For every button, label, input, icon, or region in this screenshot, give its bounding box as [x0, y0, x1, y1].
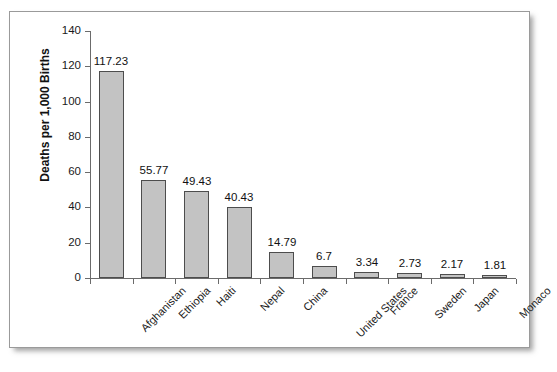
- bar-nepal[interactable]: [227, 207, 252, 278]
- y-axis-line: [90, 31, 91, 279]
- y-tick-label: 20: [35, 237, 81, 249]
- y-axis-title: Deaths per 1,000 Births: [38, 15, 52, 215]
- category-label-monaco: Monaco: [517, 285, 552, 320]
- y-tick-mark: [85, 102, 90, 103]
- bar-value-label: 14.79: [252, 237, 312, 249]
- x-tick-mark: [133, 279, 134, 284]
- chart-figure-frame: Deaths per 1,000 Births 0204060801001201…: [9, 11, 530, 348]
- bar-japan[interactable]: [440, 274, 465, 278]
- x-tick-mark: [260, 279, 261, 284]
- bar-value-label: 1.81: [465, 260, 525, 272]
- y-tick-label: 60: [35, 166, 81, 178]
- y-tick-mark: [85, 172, 90, 173]
- category-label-japan: Japan: [472, 285, 501, 314]
- y-tick-mark: [85, 243, 90, 244]
- x-tick-mark: [516, 279, 517, 284]
- x-tick-mark: [431, 279, 432, 284]
- x-tick-mark: [473, 279, 474, 284]
- category-label-haiti: Haiti: [214, 285, 237, 308]
- category-label-nepal: Nepal: [258, 285, 286, 313]
- bar-value-label: 117.23: [81, 56, 141, 68]
- bar-value-label: 55.77: [124, 165, 184, 177]
- y-tick-120: 120: [10, 66, 90, 67]
- x-tick-mark: [388, 279, 389, 284]
- bar-united-states[interactable]: [312, 266, 337, 278]
- bar-value-label: 49.43: [167, 176, 227, 188]
- y-tick-mark: [85, 31, 90, 32]
- y-tick-mark: [85, 137, 90, 138]
- y-tick-label: 40: [35, 201, 81, 213]
- y-tick-mark: [85, 207, 90, 208]
- y-tick-label: 120: [35, 60, 81, 72]
- category-label-china: China: [301, 285, 329, 313]
- plot-area: Deaths per 1,000 Births 0204060801001201…: [10, 12, 531, 349]
- bar-ethiopia[interactable]: [141, 180, 166, 278]
- y-tick-20: 20: [10, 243, 90, 244]
- x-tick-mark: [346, 279, 347, 284]
- x-tick-mark: [218, 279, 219, 284]
- bar-monaco[interactable]: [482, 275, 507, 278]
- y-tick-label: 80: [35, 131, 81, 143]
- bar-france[interactable]: [354, 272, 379, 278]
- x-tick-mark: [90, 279, 91, 284]
- category-label-sweden: Sweden: [433, 285, 469, 321]
- x-tick-mark: [175, 279, 176, 284]
- bar-afghanistan[interactable]: [99, 71, 124, 278]
- y-tick-80: 80: [10, 137, 90, 138]
- x-tick-mark: [303, 279, 304, 284]
- bar-sweden[interactable]: [397, 273, 422, 278]
- y-tick-0: 0: [10, 278, 90, 279]
- bar-value-label: 40.43: [209, 192, 269, 204]
- y-tick-60: 60: [10, 172, 90, 173]
- category-label-united-states: United States: [354, 285, 408, 339]
- y-tick-100: 100: [10, 102, 90, 103]
- y-tick-40: 40: [10, 207, 90, 208]
- y-tick-label: 140: [35, 25, 81, 37]
- y-tick-label: 100: [35, 96, 81, 108]
- bar-haiti[interactable]: [184, 191, 209, 278]
- y-tick-label: 0: [35, 272, 81, 284]
- bar-china[interactable]: [269, 252, 294, 278]
- y-tick-140: 140: [10, 31, 90, 32]
